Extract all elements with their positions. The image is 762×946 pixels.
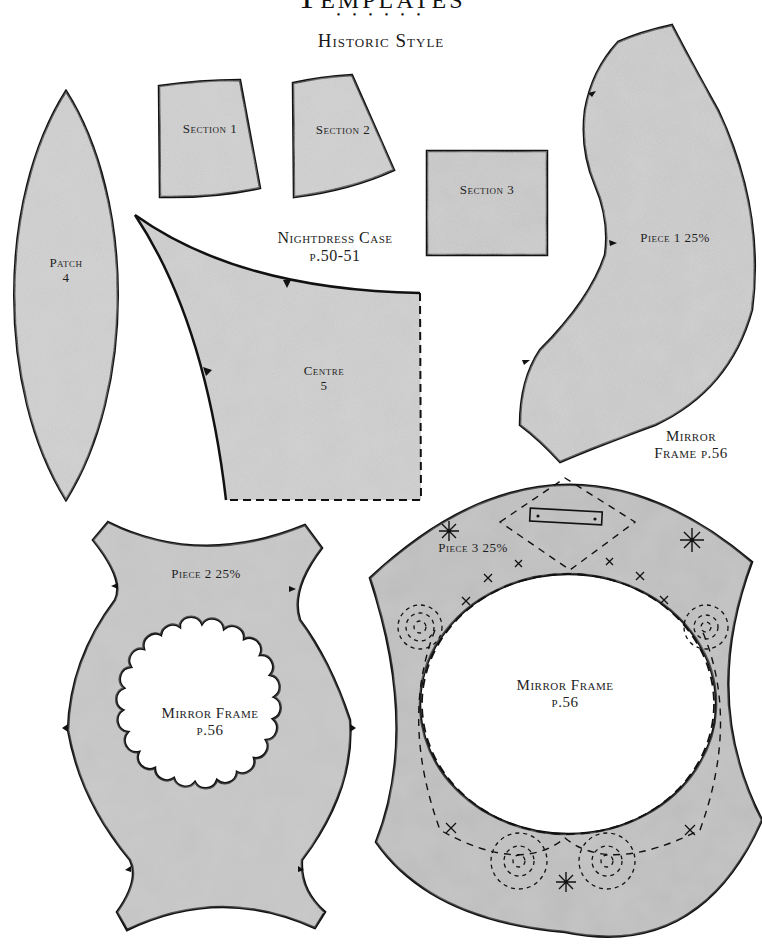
piece2-page-ref: p.56: [140, 722, 280, 739]
piece2-label: Piece 2 25%: [156, 567, 256, 582]
nightdress-project-name: Nightdress Case: [255, 229, 415, 247]
mirror-label-line2: Frame p.56: [636, 445, 746, 462]
patch-label: Patch 4: [34, 256, 98, 286]
patch-number: 4: [34, 271, 98, 286]
mirror-label-line1: Mirror: [636, 428, 746, 445]
piece2-project-name: Mirror Frame: [140, 705, 280, 722]
section2-label: Section 2: [298, 123, 388, 138]
centre-name: Centre: [289, 364, 359, 379]
piece3-mirror-frame-label: Mirror Frame p.56: [495, 677, 635, 712]
piece3-label: Piece 3 25%: [428, 541, 518, 556]
nightdress-case-label: Nightdress Case p.50-51: [255, 229, 415, 266]
patch-name: Patch: [34, 256, 98, 271]
piece3-page-ref: p.56: [495, 694, 635, 711]
piece3-project-name: Mirror Frame: [495, 677, 635, 694]
notch-marker: [350, 724, 356, 732]
piece1-label: Piece 1 25%: [625, 231, 725, 246]
section3-label: Section 3: [437, 183, 537, 198]
templates-artwork: [0, 0, 762, 946]
centre-label: Centre 5: [289, 364, 359, 394]
mirror-frame-side-label: Mirror Frame p.56: [636, 428, 746, 463]
notch-marker: [522, 360, 530, 365]
patch-piece: [14, 91, 118, 500]
centre-number: 5: [289, 379, 359, 394]
notch-marker: [125, 866, 131, 872]
notch-marker: [62, 724, 68, 732]
template-page: Templates • • • • • • Historic Style: [0, 0, 762, 946]
section1-label: Section 1: [165, 122, 255, 137]
section3-piece: [427, 151, 547, 255]
nightdress-page-ref: p.50-51: [255, 247, 415, 265]
notch-marker: [111, 583, 118, 589]
section1-piece: [159, 80, 260, 197]
piece2-mirror-frame-label: Mirror Frame p.56: [140, 705, 280, 740]
